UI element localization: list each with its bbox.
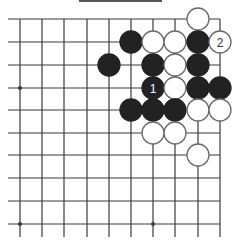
white-stone [164,77,186,99]
white-stone [187,144,209,166]
black-stone [164,99,186,121]
move-number-label: 2 [217,36,224,50]
star-point [18,222,22,226]
white-stone [142,31,164,53]
white-stone [164,122,186,144]
black-stone [142,99,164,121]
white-stone [187,8,209,30]
move-number-label: 1 [150,82,157,96]
star-point [18,86,22,90]
white-stone [209,99,231,121]
white-stone [164,54,186,76]
black-stone [120,99,142,121]
white-stone [164,31,186,53]
white-stone [187,99,209,121]
grid-lines [8,19,220,237]
black-stone [98,54,120,76]
white-stone [142,122,164,144]
black-stone [142,54,164,76]
black-stone [209,77,231,99]
go-board: 21 [0,0,238,243]
black-stone [120,31,142,53]
black-stone [187,54,209,76]
star-point [151,222,155,226]
black-stone [187,77,209,99]
black-stone [187,31,209,53]
stones: 21 [98,8,231,166]
